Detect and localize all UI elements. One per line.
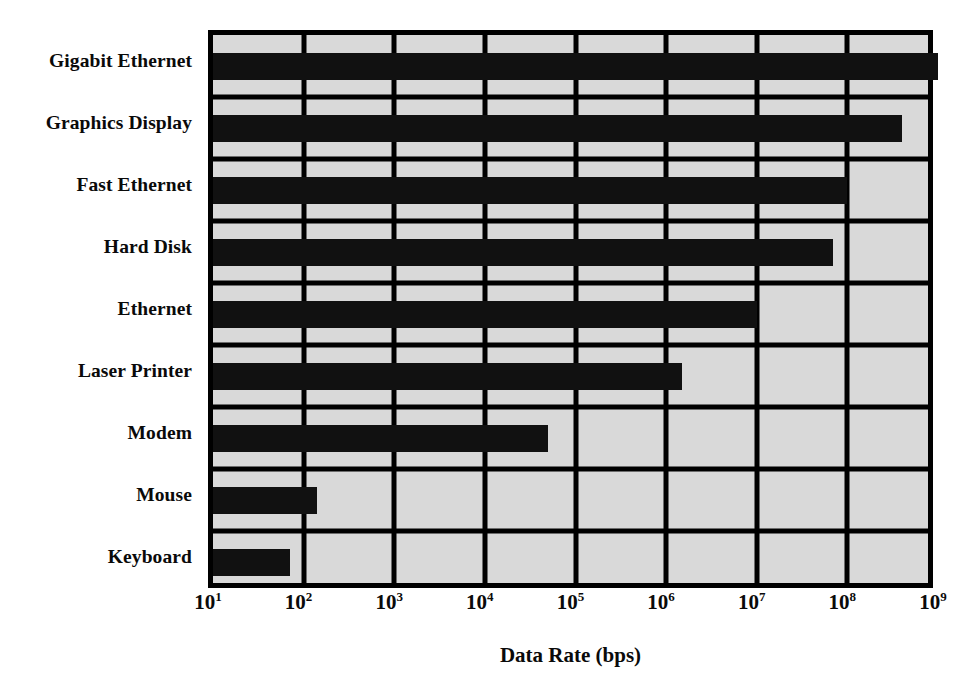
bar	[213, 239, 833, 266]
bar	[213, 549, 290, 576]
bar	[213, 487, 317, 514]
category-label: Modem	[0, 423, 192, 443]
x-tick-label: 103	[375, 592, 403, 613]
x-tick-label: 101	[194, 592, 222, 613]
bar-row	[213, 407, 928, 469]
category-label: Gigabit Ethernet	[0, 51, 192, 71]
bar-row	[213, 221, 928, 283]
x-tick-label: 102	[285, 592, 313, 613]
category-label: Laser Printer	[0, 361, 192, 381]
bar-row	[213, 97, 928, 159]
category-label: Mouse	[0, 485, 192, 505]
category-label: Graphics Display	[0, 113, 192, 133]
category-label: Keyboard	[0, 547, 192, 567]
x-axis-title: Data Rate (bps)	[208, 645, 933, 666]
plot-inner	[213, 35, 928, 583]
category-label: Hard Disk	[0, 237, 192, 257]
data-rate-bar-chart: Gigabit EthernetGraphics DisplayFast Eth…	[0, 0, 976, 691]
category-axis-labels: Gigabit EthernetGraphics DisplayFast Eth…	[0, 30, 200, 588]
x-tick-label: 108	[829, 592, 857, 613]
x-tick-label: 107	[738, 592, 766, 613]
bar	[213, 115, 902, 142]
bar	[213, 363, 682, 390]
x-tick-label: 109	[919, 592, 947, 613]
bar	[213, 177, 847, 204]
plot-area	[208, 30, 933, 588]
x-tick-label: 105	[557, 592, 585, 613]
bar	[213, 53, 938, 80]
x-axis-tick-labels: 101102103104105106107108109	[208, 592, 933, 628]
category-label: Ethernet	[0, 299, 192, 319]
x-tick-label: 104	[466, 592, 494, 613]
bar	[213, 301, 757, 328]
bar-row	[213, 345, 928, 407]
bar-row	[213, 283, 928, 345]
x-tick-label: 106	[647, 592, 675, 613]
bar	[213, 425, 548, 452]
bar-row	[213, 531, 928, 593]
bar-row	[213, 159, 928, 221]
bar-row	[213, 469, 928, 531]
category-label: Fast Ethernet	[0, 175, 192, 195]
bar-row	[213, 35, 928, 97]
